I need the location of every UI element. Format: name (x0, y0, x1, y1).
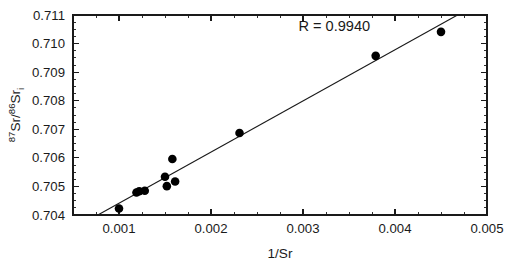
x-tick-label: 0.004 (378, 221, 411, 236)
data-points (115, 28, 446, 213)
annotation-r-value: R = 0.9940 (298, 18, 370, 34)
y-tick-label: 0.706 (32, 150, 65, 165)
x-axis-title: 1/Sr (268, 246, 293, 261)
data-point (163, 182, 172, 191)
data-point (115, 204, 124, 213)
data-point (161, 172, 170, 181)
y-tick-label: 0.711 (33, 8, 65, 23)
y-axis-title: 87Sr/86Sri (6, 88, 26, 142)
axis-box (73, 15, 487, 215)
x-tick-label: 0.001 (102, 221, 135, 236)
x-tick-labels: 0.0010.0020.0030.0040.005 (102, 221, 503, 236)
regression-line (98, 15, 458, 215)
y-tick-labels: 0.7040.7050.7060.7070.7080.7090.7100.711 (32, 8, 65, 223)
data-point (168, 155, 177, 164)
data-point (437, 28, 446, 37)
x-tick-label: 0.003 (286, 221, 319, 236)
data-point (371, 52, 380, 61)
y-tick-label: 0.709 (32, 65, 65, 80)
data-point (171, 177, 180, 186)
y-tick-label: 0.705 (32, 179, 65, 194)
x-tick-label: 0.002 (194, 221, 227, 236)
figure-scatter-sr-isotope: 0.0010.0020.0030.0040.005 0.7040.7050.70… (0, 0, 511, 268)
y-tick-label: 0.707 (32, 122, 65, 137)
annotation-text: R = 0.9940 (298, 18, 370, 34)
data-point (235, 129, 244, 138)
regression-line-path (98, 15, 458, 215)
y-tick-label: 0.710 (32, 36, 65, 51)
y-tick-label: 0.704 (32, 208, 65, 223)
y-tick-label: 0.708 (32, 93, 65, 108)
axis-ticks (73, 15, 487, 215)
data-point (140, 186, 149, 195)
plot-frame (73, 15, 487, 215)
x-tick-label: 0.005 (470, 221, 503, 236)
plot-canvas: 0.0010.0020.0030.0040.005 0.7040.7050.70… (0, 0, 511, 268)
